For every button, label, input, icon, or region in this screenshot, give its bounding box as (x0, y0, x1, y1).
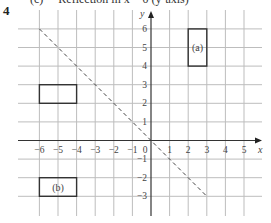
y-tick-labels: 6 5 4 3 2 1 −1 −2 −3 (137, 24, 147, 201)
svg-text:1: 1 (142, 117, 147, 127)
rectangle-a-label: (a) (192, 42, 203, 54)
svg-text:2: 2 (186, 145, 191, 155)
svg-text:−1: −1 (137, 154, 147, 164)
svg-text:6: 6 (142, 24, 147, 34)
svg-text:1: 1 (167, 145, 172, 155)
y-axis-label: y (139, 8, 145, 19)
y-axis-arrow-icon (148, 11, 154, 18)
svg-text:−3: −3 (137, 191, 147, 201)
mirror-line-dashed (39, 29, 206, 196)
svg-text:3: 3 (204, 145, 209, 155)
rectangle-b-label: (b) (52, 182, 64, 194)
coordinate-grid: x y −6 −5 −4 −3 −2 −1 0 1 2 3 4 5 6 5 4 … (0, 0, 271, 223)
svg-text:−4: −4 (72, 145, 82, 155)
x-axis-arrow-icon (255, 138, 262, 144)
svg-text:−3: −3 (90, 145, 100, 155)
svg-text:4: 4 (142, 61, 147, 71)
svg-text:5: 5 (142, 43, 147, 53)
svg-text:−2: −2 (109, 145, 119, 155)
svg-text:4: 4 (223, 145, 228, 155)
svg-text:−2: −2 (137, 173, 147, 183)
svg-text:5: 5 (242, 145, 247, 155)
svg-text:−5: −5 (53, 145, 63, 155)
svg-text:−6: −6 (34, 145, 44, 155)
svg-text:2: 2 (142, 98, 147, 108)
svg-text:3: 3 (142, 80, 147, 90)
x-axis-label: x (257, 144, 263, 155)
